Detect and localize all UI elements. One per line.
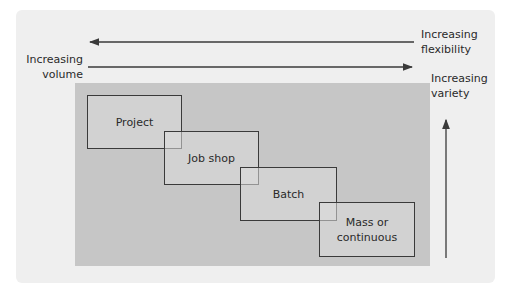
variety-label: Increasing variety xyxy=(431,71,488,101)
volume-label-line1: Increasing xyxy=(20,52,83,67)
variety-label-line2: variety xyxy=(431,86,488,101)
batch-label: Batch xyxy=(273,187,305,202)
job-shop-label: Job shop xyxy=(188,151,235,166)
flexibility-label-line2: flexibility xyxy=(421,42,478,57)
variety-label-line1: Increasing xyxy=(431,71,488,86)
volume-label-line2: volume xyxy=(20,67,83,82)
mass-continuous-box: Mass or continuous xyxy=(319,202,415,257)
mass-label-line2: continuous xyxy=(337,230,398,245)
flexibility-label: Increasing flexibility xyxy=(421,27,478,57)
mass-label-line1: Mass or xyxy=(337,215,398,230)
volume-label: Increasing volume xyxy=(20,52,83,82)
flexibility-label-line1: Increasing xyxy=(421,27,478,42)
project-label: Project xyxy=(116,115,154,130)
